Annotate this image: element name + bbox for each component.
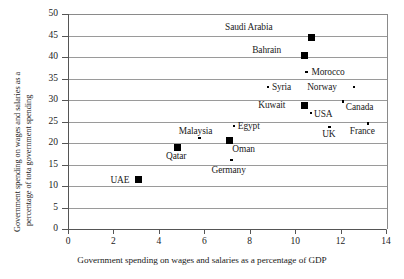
y-axis-tick-label: 5: [40, 202, 58, 212]
y-axis-tick-label: 15: [40, 159, 58, 169]
y-axis-tick-label: 10: [40, 180, 58, 190]
x-axis-tick-label: 8: [240, 236, 260, 246]
data-point-marker: [328, 126, 331, 129]
data-point-label: France: [350, 126, 375, 136]
x-axis-tick: [386, 230, 387, 234]
data-point-marker: [310, 112, 313, 115]
data-point-marker: [230, 159, 233, 162]
data-point-marker: [301, 52, 308, 59]
gridline: [69, 14, 387, 15]
x-axis-tick-label: 4: [149, 236, 169, 246]
y-axis-tick: [62, 79, 68, 80]
y-axis-tick: [62, 36, 68, 37]
y-axis-tick: [62, 143, 68, 144]
x-axis-tick: [204, 230, 205, 234]
data-point-marker: [305, 71, 308, 74]
y-axis-tick: [62, 186, 68, 187]
data-point-marker: [342, 100, 345, 103]
y-axis-tick-label: 30: [40, 94, 58, 104]
data-point-label: Qatar: [166, 151, 186, 161]
x-axis-tick-label: 10: [285, 236, 305, 246]
data-point-label: Syria: [272, 82, 291, 92]
y-axis-tick-label: 20: [40, 137, 58, 147]
y-axis-tick-label: 45: [40, 30, 58, 40]
data-point-label: UAE: [110, 175, 129, 185]
data-point-marker: [174, 144, 181, 151]
x-axis-tick-label: 2: [103, 236, 123, 246]
y-axis-tick: [62, 122, 68, 123]
data-point-marker: [135, 176, 142, 183]
y-axis-tick-label: 0: [40, 223, 58, 233]
data-point-marker: [267, 86, 270, 89]
x-axis-tick: [159, 230, 160, 234]
x-axis-tick-label: 6: [194, 236, 214, 246]
x-axis-tick: [341, 230, 342, 234]
gridline: [69, 79, 387, 80]
y-axis-tick: [62, 14, 68, 15]
y-axis-title-line2: percentage of tota government spending: [24, 95, 34, 226]
y-axis-title: Government spending on wages and salarie…: [0, 0, 36, 240]
data-point-label: Malaysia: [179, 126, 213, 136]
data-point-marker: [353, 86, 356, 89]
data-point-label: Morocco: [312, 67, 345, 77]
data-point-label: Bahrain: [252, 45, 281, 55]
data-point-marker: [233, 125, 236, 128]
data-point-label: Oman: [232, 144, 255, 154]
x-axis-tick-label: 14: [376, 236, 396, 246]
gridline: [69, 100, 387, 101]
data-point-label: Egypt: [238, 121, 260, 131]
gridline: [69, 208, 387, 209]
y-axis-tick-label: 35: [40, 73, 58, 83]
gridline: [69, 36, 387, 37]
data-point-label: USA: [314, 109, 332, 119]
y-axis-tick: [62, 165, 68, 166]
data-point-label: Norway: [307, 82, 337, 92]
y-axis-tick-label: 40: [40, 51, 58, 61]
y-axis-tick-label: 25: [40, 116, 58, 126]
data-point-label: Germany: [212, 165, 246, 175]
x-axis-title: Government spending on wages and salarie…: [0, 255, 404, 265]
cutoff-title-strip: [55, 0, 355, 5]
data-point-label: UK: [322, 129, 335, 139]
y-axis-tick: [62, 100, 68, 101]
x-axis-tick-label: 12: [331, 236, 351, 246]
x-axis-tick: [295, 230, 296, 234]
plot-area: [68, 14, 388, 229]
x-axis-tick: [250, 230, 251, 234]
gridline: [69, 122, 387, 123]
y-axis-tick: [62, 208, 68, 209]
scatter-chart: Government spending on wages and salarie…: [0, 0, 404, 279]
gridline: [69, 57, 387, 58]
data-point-marker: [198, 137, 201, 140]
data-point-label: Kuwait: [258, 100, 285, 110]
data-point-marker: [301, 102, 308, 109]
x-axis-tick-label: 0: [58, 236, 78, 246]
y-axis-tick-label: 50: [40, 8, 58, 18]
gridline: [69, 186, 387, 187]
data-point-label: Saudi Arabia: [225, 22, 273, 32]
y-axis-title-line1: Government spending on wages and salarie…: [13, 72, 23, 232]
y-axis-tick: [62, 57, 68, 58]
x-axis-tick: [113, 230, 114, 234]
x-axis-tick: [68, 230, 69, 234]
data-point-label: Canada: [346, 102, 374, 112]
data-point-marker: [308, 34, 315, 41]
data-point-marker: [367, 122, 370, 125]
x-axis-line: 02468101214: [68, 229, 386, 230]
